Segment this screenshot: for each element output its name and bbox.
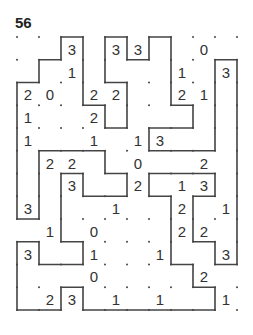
clue-cell[interactable]: 3: [222, 64, 230, 81]
grid-dot: [148, 82, 150, 84]
grid-dot: [192, 150, 194, 152]
clue-cell[interactable]: 1: [24, 109, 32, 126]
clue-cell[interactable]: 1: [178, 64, 186, 81]
clue-cell[interactable]: 2: [200, 155, 208, 172]
clue-cell[interactable]: 2: [68, 155, 76, 172]
clue-cell[interactable]: 2: [90, 109, 98, 126]
grid-dot: [192, 104, 194, 106]
clue-cell[interactable]: 2: [200, 223, 208, 240]
grid-dot: [82, 309, 84, 311]
grid-dot: [60, 173, 62, 175]
clue-cell[interactable]: 1: [134, 132, 142, 149]
grid-dot: [60, 264, 62, 266]
grid-dot: [82, 195, 84, 197]
clue-cell[interactable]: 2: [178, 86, 186, 103]
clue-cell[interactable]: 0: [46, 86, 54, 103]
grid-dot: [170, 104, 172, 106]
clue-cell[interactable]: 2: [178, 200, 186, 217]
grid-dot: [236, 173, 238, 175]
clue-cell[interactable]: 2: [178, 223, 186, 240]
clue-cell[interactable]: 1: [90, 132, 98, 149]
grid-dot: [192, 36, 194, 38]
clue-cell[interactable]: 2: [46, 155, 54, 172]
grid-dot: [38, 218, 40, 220]
grid-dot: [170, 195, 172, 197]
clue-cell[interactable]: 3: [134, 41, 142, 58]
clue-cell[interactable]: 1: [46, 223, 54, 240]
grid-dot: [148, 264, 150, 266]
grid-dot: [214, 150, 216, 152]
clue-cell[interactable]: 2: [24, 86, 32, 103]
grid-dot: [82, 150, 84, 152]
grid-dot: [82, 264, 84, 266]
grid-dot: [214, 286, 216, 288]
grid-dot: [148, 127, 150, 129]
grid-dot: [148, 286, 150, 288]
grid-dot: [192, 127, 194, 129]
clue-cell[interactable]: 0: [200, 41, 208, 58]
grid-dot: [170, 309, 172, 311]
grid-dot: [236, 286, 238, 288]
grid-dot: [16, 127, 18, 129]
grid-dot: [104, 104, 106, 106]
clue-cell[interactable]: 3: [200, 177, 208, 194]
clue-cell[interactable]: 2: [90, 86, 98, 103]
grid-dot: [38, 59, 40, 61]
grid-dot: [126, 264, 128, 266]
grid-dot: [214, 59, 216, 61]
grid-dot: [82, 104, 84, 106]
clue-cell[interactable]: 2: [112, 86, 120, 103]
clue-cell[interactable]: 1: [200, 86, 208, 103]
clue-cell[interactable]: 3: [24, 200, 32, 217]
clue-cell[interactable]: 1: [156, 291, 164, 308]
grid-dot: [60, 218, 62, 220]
grid-dot: [16, 150, 18, 152]
grid-dot: [236, 241, 238, 243]
grid-dot: [170, 241, 172, 243]
grid-dot: [60, 82, 62, 84]
grid-dot: [38, 150, 40, 152]
grid-dot: [214, 264, 216, 266]
grid-dot: [192, 82, 194, 84]
slitherlink-board[interactable]: 3330113202221121113220232133121102231130…: [0, 0, 253, 335]
clue-cell[interactable]: 2: [200, 268, 208, 285]
clue-cell[interactable]: 3: [68, 41, 76, 58]
clue-cell[interactable]: 0: [134, 155, 142, 172]
grid-dot: [16, 264, 18, 266]
clue-cell[interactable]: 3: [156, 132, 164, 149]
clue-cell[interactable]: 0: [90, 268, 98, 285]
grid-dot: [214, 104, 216, 106]
grid-dot: [126, 195, 128, 197]
clue-cell[interactable]: 3: [68, 291, 76, 308]
grid-dot: [148, 218, 150, 220]
clue-cell[interactable]: 1: [222, 200, 230, 217]
clue-cell[interactable]: 1: [178, 177, 186, 194]
clue-cell[interactable]: 1: [156, 246, 164, 263]
clue-cell[interactable]: 3: [112, 41, 120, 58]
clue-cell[interactable]: 2: [46, 291, 54, 308]
clue-cell[interactable]: 1: [24, 132, 32, 149]
clue-cell[interactable]: 1: [90, 246, 98, 263]
clue-cell[interactable]: 2: [134, 177, 142, 194]
grid-dot: [148, 309, 150, 311]
clue-cell[interactable]: 1: [112, 200, 120, 217]
clue-cell[interactable]: 1: [68, 64, 76, 81]
grid-dot: [236, 264, 238, 266]
clue-cell[interactable]: 1: [112, 291, 120, 308]
grid-dot: [82, 218, 84, 220]
grid-dot: [192, 59, 194, 61]
clue-cell[interactable]: 1: [222, 291, 230, 308]
grid-dot: [126, 36, 128, 38]
grid-dot: [38, 127, 40, 129]
grid-dot: [170, 286, 172, 288]
grid-dot: [236, 309, 238, 311]
grid-dot: [126, 173, 128, 175]
grid-dot: [170, 218, 172, 220]
clue-cell[interactable]: 3: [24, 246, 32, 263]
grid-dot: [126, 127, 128, 129]
clue-cell[interactable]: 3: [222, 246, 230, 263]
clue-cell[interactable]: 3: [68, 177, 76, 194]
clue-cell[interactable]: 0: [90, 223, 98, 240]
grid-dot: [148, 150, 150, 152]
grid-dot: [104, 173, 106, 175]
